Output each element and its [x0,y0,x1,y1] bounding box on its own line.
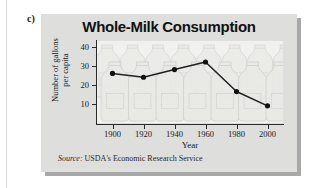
data-point-marker [141,75,146,80]
source-text: USDA's Economic Research Service [85,154,203,163]
data-point-marker [265,103,270,108]
item-label: c) [27,13,35,24]
data-point-marker [234,89,239,94]
page-margin-rule [6,0,7,188]
data-point-marker [203,59,208,64]
source-prefix: Source: [58,154,83,163]
data-line [113,62,268,106]
figure-panel: Whole-Milk Consumption 10203040 19001920… [41,14,297,172]
plot-wrapper: 10203040 190019201940196019802000 Number… [41,14,297,172]
data-point-marker [110,71,115,76]
data-point-marker [172,67,177,72]
source-note: Source: USDA's Economic Research Service [58,154,203,163]
data-series-layer [41,14,297,172]
